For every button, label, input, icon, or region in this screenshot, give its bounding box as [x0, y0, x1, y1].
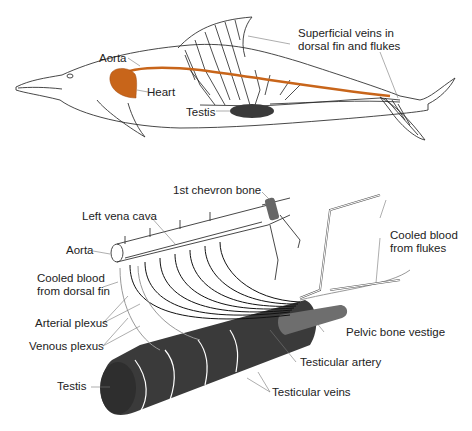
label-testicular-veins: Testicular veins — [272, 386, 351, 399]
label-cooled-blood-flukes: Cooled blood from flukes — [390, 229, 458, 255]
label-cooled-dorsal-line2: from dorsal fin — [37, 285, 110, 298]
label-superficial-veins-line2: dorsal fin and flukes — [298, 40, 400, 53]
label-venous-plexus: Venous plexus — [29, 340, 104, 353]
chevron-bone — [264, 197, 279, 221]
label-arterial-plexus: Arterial plexus — [35, 317, 108, 330]
label-aorta-bottom: Aorta — [66, 244, 94, 257]
heart-shape — [110, 68, 137, 98]
label-heart: Heart — [147, 86, 175, 99]
label-testicular-artery: Testicular artery — [300, 356, 381, 369]
testis-shape — [230, 104, 274, 118]
label-cooled-blood-dorsal-fin: Cooled blood from dorsal fin — [37, 272, 110, 298]
label-superficial-veins: Superficial veins in dorsal fin and fluk… — [298, 27, 400, 53]
label-testis-top: Testis — [186, 106, 215, 119]
label-testis-bottom: Testis — [57, 380, 86, 393]
label-cooled-flukes-line2: from flukes — [390, 242, 458, 255]
label-cooled-dorsal-line1: Cooled blood — [37, 272, 110, 285]
label-superficial-veins-line1: Superficial veins in — [298, 27, 400, 40]
label-cooled-flukes-line1: Cooled blood — [390, 229, 458, 242]
label-aorta-top: Aorta — [99, 52, 127, 65]
label-first-chevron-bone: 1st chevron bone — [173, 184, 261, 197]
dolphin-anatomy-diagram — [0, 0, 472, 431]
label-pelvic-bone-vestige: Pelvic bone vestige — [346, 326, 445, 339]
label-left-vena-cava: Left vena cava — [82, 210, 157, 223]
